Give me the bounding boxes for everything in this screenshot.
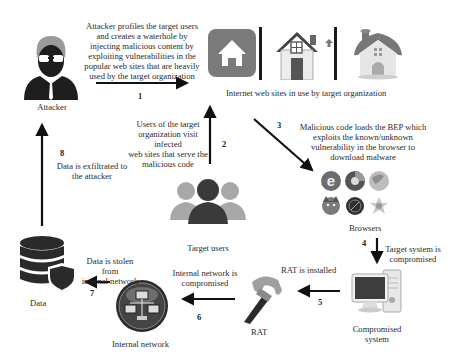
firefox-icon [322,196,340,215]
watering-hole-attack-diagram: Attacker Attacker profiles the target us… [0,0,454,363]
step-6-description: Internal network is compromised [170,268,240,288]
step-8-number: 8 [60,148,64,158]
step-5-description: RAT is installed [281,265,336,275]
maxthon-icon [370,197,388,214]
users-group-icon [170,178,246,224]
small-up-arrow-icon [325,33,333,41]
data-label: Data [30,298,46,308]
step-4-number: 4 [362,238,366,248]
separator-bar [259,27,262,80]
browsers-label: Browsers [349,223,381,233]
step-5-number: 5 [318,297,322,307]
desktop-computer-icon [350,268,404,318]
step-3-number: 3 [277,120,281,130]
step-1-description: Attacker profiles the target users and c… [84,21,200,81]
step-4-description: Target system is compromised [383,244,443,264]
database-shield-icon [18,235,78,293]
step-7-description: Data is stolen from internal network [78,256,142,286]
attacker-label: Attacker [22,102,82,112]
safari-icon [369,171,389,191]
network-icon [115,279,169,333]
svg-text:e: e [327,172,335,189]
compromised-system-label: Compromised system [342,324,412,344]
cottage-icon [352,28,404,80]
hammer-icon [234,272,286,324]
step-1-number: 1 [138,91,142,101]
attacker-icon [20,28,82,100]
internet-explorer-icon: e [321,171,341,191]
browsers-icon-grid: e [320,170,390,220]
step-3-description: Malicious code loads the BEP which explo… [296,122,430,162]
step-2-description: Users of the target organization visit i… [128,119,208,169]
opera-icon [346,197,364,215]
rat-label: RAT [251,327,267,337]
step-7-number: 7 [90,288,94,298]
home-app-icon [207,28,257,78]
step-2-number: 2 [222,139,226,149]
chrome-icon [345,171,365,191]
target-users-label: Target users [178,243,238,253]
internal-network-label: Internal network [112,339,169,349]
step-6-number: 6 [197,312,201,322]
websites-label: Internet web sites in use by target orga… [226,88,386,98]
step-8-description: Data is exfiltrated to the attacker [52,161,132,181]
separator-bar [334,27,337,80]
house-icon [272,28,322,80]
